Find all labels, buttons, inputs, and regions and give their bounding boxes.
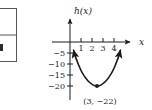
graph-plot: 1 2 3 4 −5 −10 −15 −20 h(x) x (3, −22) <box>0 0 152 110</box>
x-tick-label-1: 1 <box>78 44 83 53</box>
y-tick-label-minus10: −10 <box>48 60 65 69</box>
y-axis-label: h(x) <box>74 6 92 16</box>
y-tick-label-minus20: −20 <box>48 82 65 91</box>
vertex-label: (3, −22) <box>83 97 116 106</box>
x-axis-label: x <box>139 37 144 47</box>
y-tick-label-minus15: −15 <box>48 71 65 80</box>
parabola-left-branch <box>74 50 97 86</box>
figure-container: 1 2 3 4 −5 −10 −15 −20 h(x) x (3, −22) <box>0 0 152 110</box>
parabola-right-branch <box>97 50 120 86</box>
x-tick-label-4: 4 <box>111 44 116 53</box>
x-tick-label-3: 3 <box>100 44 105 53</box>
x-tick-label-2: 2 <box>89 44 94 53</box>
vertex-point-marker <box>95 84 99 88</box>
x-axis-ticks <box>81 38 114 42</box>
y-tick-label-minus5: −5 <box>53 49 65 58</box>
